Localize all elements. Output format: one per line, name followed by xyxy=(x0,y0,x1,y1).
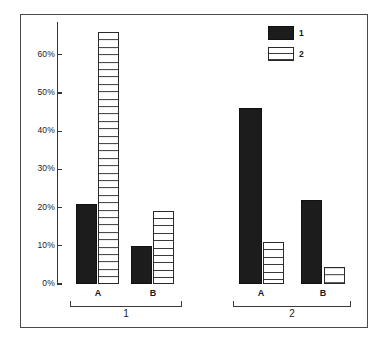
y-tick-label-row-60: 60% xyxy=(22,50,55,59)
group-bracket-1 xyxy=(70,301,182,307)
bar-cluster-group1-B xyxy=(131,22,175,284)
y-tick-label-row-20: 20% xyxy=(22,203,55,212)
legend-row-series2: 2 xyxy=(268,47,338,65)
y-tick-mark-30 xyxy=(57,169,62,170)
y-tick-label: 50% xyxy=(25,88,55,97)
y-tick-label-row-50: 50% xyxy=(22,88,55,97)
y-tick-label: 10% xyxy=(25,241,55,250)
legend-label-series1: 1 xyxy=(299,29,304,38)
y-tick-label: 60% xyxy=(25,50,55,59)
y-tick-label-row-10: 10% xyxy=(22,241,55,250)
category-label-group1-B: B xyxy=(131,289,175,298)
group-bracket-label-1: 1 xyxy=(70,309,182,319)
bar-group1-A-series2 xyxy=(98,32,119,284)
bar-group2-B-series1 xyxy=(301,200,322,284)
category-label-group2-B: B xyxy=(301,289,345,298)
bar-group2-A-series2 xyxy=(263,242,284,284)
bar-group1-B-series2 xyxy=(153,211,174,284)
y-tick-label-row-30: 30% xyxy=(22,164,55,173)
group-bracket-label-2: 2 xyxy=(233,309,351,319)
bar-cluster-group1-A xyxy=(76,22,120,284)
y-tick-label: 0% xyxy=(25,279,55,288)
bar-group1-B-series1 xyxy=(131,246,152,284)
y-tick-mark-10 xyxy=(57,245,62,246)
y-tick-label: 20% xyxy=(25,203,55,212)
y-tick-label-row-0: 0% xyxy=(22,279,55,288)
y-tick-mark-20 xyxy=(57,207,62,208)
y-tick-mark-0 xyxy=(57,283,62,284)
bar-group2-B-series2 xyxy=(324,267,345,284)
category-label-group1-A: A xyxy=(76,289,120,298)
legend: 1 2 xyxy=(268,26,338,68)
y-tick-label-row-40: 40% xyxy=(22,126,55,135)
legend-swatch-series2-icon xyxy=(268,47,294,61)
y-tick-mark-60 xyxy=(57,54,62,55)
y-tick-mark-50 xyxy=(57,92,62,93)
bar-group1-A-series1 xyxy=(76,204,97,284)
bar-group2-A-series1 xyxy=(239,108,262,284)
plot-area: 0% 10% 20% 30% 40% 50% 60% xyxy=(0,0,385,343)
y-tick-label: 30% xyxy=(25,164,55,173)
legend-label-series2: 2 xyxy=(299,50,304,59)
group-bracket-2 xyxy=(233,301,351,307)
chart-figure: 0% 10% 20% 30% 40% 50% 60% xyxy=(0,0,385,343)
legend-swatch-series1-icon xyxy=(268,26,294,40)
y-tick-mark-40 xyxy=(57,131,62,132)
legend-row-series1: 1 xyxy=(268,26,338,44)
category-label-group2-A: A xyxy=(239,289,283,298)
y-tick-label: 40% xyxy=(25,126,55,135)
